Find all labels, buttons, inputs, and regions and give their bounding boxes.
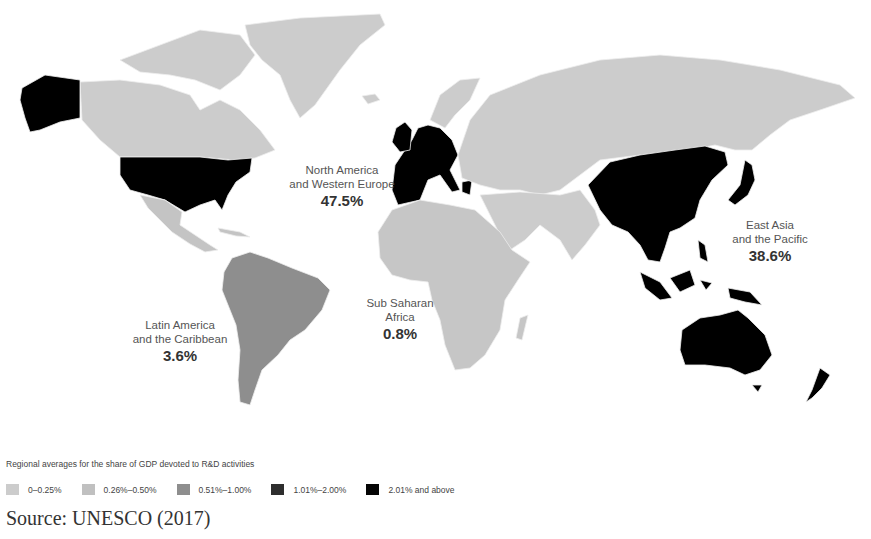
- region-value: 38.6%: [715, 247, 825, 265]
- iceland: [362, 94, 380, 104]
- usa: [120, 157, 252, 212]
- source-caption: Source: UNESCO (2017): [6, 507, 210, 530]
- alaska: [20, 75, 80, 132]
- legend-swatch: [177, 484, 190, 495]
- region-name-line1: Sub Saharan: [366, 297, 433, 309]
- madagascar: [516, 315, 528, 340]
- new-zealand: [806, 368, 830, 402]
- region-label-east-asia-pacific: East Asia and the Pacific 38.6%: [715, 218, 825, 265]
- region-value: 47.5%: [262, 192, 422, 210]
- legend-item-1: 0.26%–0.50%: [82, 484, 157, 495]
- legend-swatch: [366, 484, 379, 495]
- legend-label: 1.01%–2.00%: [293, 485, 346, 495]
- uk-ireland: [392, 122, 412, 152]
- philippines: [698, 240, 708, 262]
- japan: [728, 160, 755, 205]
- legend-label: 2.01% and above: [388, 485, 454, 495]
- legend: 0–0.25% 0.26%–0.50% 0.51%–1.00% 1.01%–2.…: [6, 484, 475, 495]
- legend-item-3: 1.01%–2.00%: [271, 484, 346, 495]
- greenland: [245, 14, 385, 118]
- greece: [462, 180, 472, 195]
- east-asia: [588, 146, 728, 262]
- legend-swatch: [271, 484, 284, 495]
- region-label-sub-saharan-africa: Sub Saharan Africa 0.8%: [355, 296, 445, 343]
- region-label-latin-america-caribbean: Latin America and the Caribbean 3.6%: [120, 318, 240, 365]
- legend-item-2: 0.51%–1.00%: [177, 484, 252, 495]
- region-value: 0.8%: [355, 325, 445, 343]
- legend-label: 0–0.25%: [28, 485, 62, 495]
- legend-label: 0.26%–0.50%: [104, 485, 157, 495]
- region-name-line1: North America: [306, 164, 379, 176]
- legend-title: Regional averages for the share of GDP d…: [6, 459, 254, 469]
- legend-label: 0.51%–1.00%: [199, 485, 252, 495]
- canada-arctic: [120, 30, 255, 90]
- region-name-line2: and the Pacific: [732, 233, 807, 245]
- canada: [80, 80, 275, 160]
- legend-swatch: [82, 484, 95, 495]
- region-name-line2: and Western Europe: [289, 178, 394, 190]
- indonesia: [640, 270, 762, 305]
- region-label-north-america-western-europe: North America and Western Europe 47.5%: [262, 163, 422, 210]
- region-name-line1: East Asia: [746, 219, 794, 231]
- region-name-line1: Latin America: [145, 319, 215, 331]
- legend-item-0: 0–0.25%: [6, 484, 62, 495]
- legend-swatch: [6, 484, 19, 495]
- legend-item-4: 2.01% and above: [366, 484, 454, 495]
- region-name-line2: Africa: [385, 311, 414, 323]
- australia: [680, 310, 772, 375]
- region-name-line2: and the Caribbean: [133, 333, 228, 345]
- region-value: 3.6%: [120, 347, 240, 365]
- caribbean: [218, 228, 250, 237]
- tasmania: [752, 385, 762, 392]
